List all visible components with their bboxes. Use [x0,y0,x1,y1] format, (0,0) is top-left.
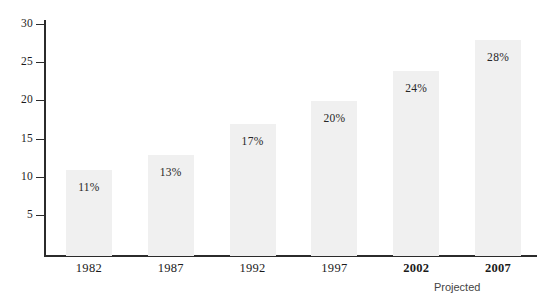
bar[interactable]: 24% [393,71,439,256]
bar[interactable]: 11% [66,170,112,256]
bar[interactable]: 20% [311,101,357,256]
y-axis-tick-mark [36,177,45,178]
bar[interactable]: 13% [148,155,194,256]
y-axis-tick-label: 20 [0,94,33,106]
bar[interactable]: 17% [230,124,276,256]
bars-layer: 11%13%17%20%24%28% [46,20,537,256]
bar-chart: 51015202530 11%13%17%20%24%28% 198219871… [0,0,543,304]
bar-value-label: 17% [230,136,276,148]
bar[interactable]: 28% [475,40,521,256]
bar-value-label: 28% [475,52,521,64]
bar-value-label: 20% [311,113,357,125]
projected-annotation: Projected [397,282,517,293]
y-axis-tick-label-text: 20 [3,94,33,106]
y-axis-tick-mark [36,100,45,101]
y-axis-tick-label-text: 25 [3,56,33,68]
x-axis-label: 1997 [294,262,374,275]
y-axis-tick-label: 10 [0,171,33,183]
y-axis-tick-label-text: 30 [3,18,33,30]
x-axis-label: 1987 [131,262,211,275]
y-axis-tick-mark [36,215,45,216]
y-axis-tick-mark [36,24,45,25]
y-axis-tick-label-text: 10 [3,171,33,183]
y-axis-tick-label: 5 [0,209,33,221]
bar-value-label: 11% [66,182,112,194]
x-axis-labels: 198219871992199720022007 [46,262,537,280]
y-axis-tick-label-text: 5 [3,209,33,221]
x-axis-label: 1992 [213,262,293,275]
y-axis-tick-mark [36,139,45,140]
x-axis-label: 2007 [458,262,538,275]
y-axis-tick-label: 30 [0,18,33,30]
y-axis-tick-label: 15 [0,133,33,145]
bar-value-label: 13% [148,167,194,179]
y-axis-tick-label: 25 [0,56,33,68]
y-axis-tick-mark [36,62,45,63]
bar-value-label: 24% [393,83,439,95]
x-axis-label: 2002 [376,262,456,275]
x-axis-label: 1982 [49,262,129,275]
y-axis-tick-label-text: 15 [3,133,33,145]
